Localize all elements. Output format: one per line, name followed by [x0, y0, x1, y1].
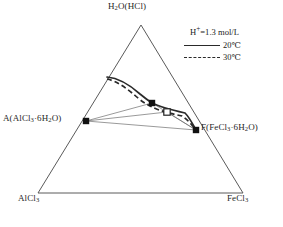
point-label-a: A(AlCl3·6H2O)	[3, 114, 61, 124]
vertex-label-alcl3: AlCl3	[18, 194, 39, 204]
legend-item-30c: 30℃	[184, 52, 280, 63]
tie-line-a-e1	[86, 103, 152, 121]
point-label-f: F(FeCl3·6H2O)	[201, 123, 258, 133]
vertex-label-fecl3: FeCl3	[227, 194, 248, 204]
legend-item-20c: 20℃	[184, 40, 280, 51]
tie-line-a-f	[86, 121, 196, 130]
legend-line-solid-icon	[184, 41, 220, 50]
marker-point-f	[193, 127, 199, 133]
apex-label-h2o-hcl: H2O(HCl)	[108, 2, 146, 12]
ternary-phase-diagram-figure: H2O(HCl) A(AlCl3·6H2O) F(FeCl3·6H2O) AlC…	[0, 0, 283, 227]
legend-label-20c: 20℃	[220, 40, 241, 50]
marker-invariant-point-20c	[149, 100, 155, 106]
legend-line-dashed-icon	[184, 53, 220, 62]
tie-line-a-e2	[86, 112, 167, 121]
marker-invariant-point-30c	[164, 109, 170, 115]
legend: H+=1.3 mol/L 20℃ 30℃	[184, 25, 280, 64]
tie-lines-group	[86, 103, 196, 130]
marker-point-a	[83, 118, 89, 124]
legend-label-30c: 30℃	[220, 52, 241, 62]
legend-title: H+=1.3 mol/L	[184, 25, 280, 37]
